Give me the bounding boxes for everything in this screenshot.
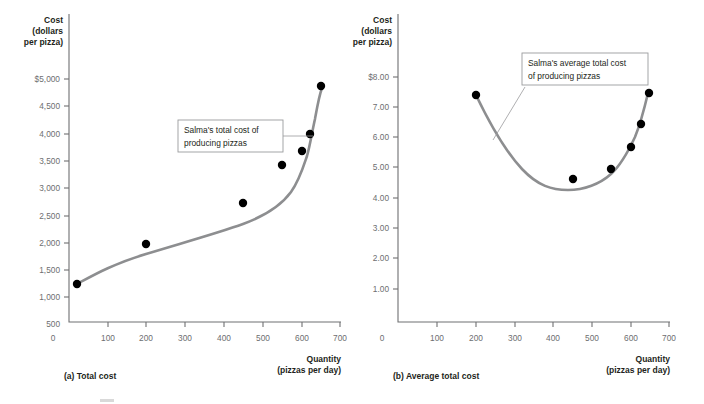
x-tick-label-300: 300 xyxy=(178,333,192,343)
data-point xyxy=(607,165,615,173)
callout-leader-line xyxy=(493,87,525,140)
data-point xyxy=(637,120,645,128)
y-ticks xyxy=(64,79,69,297)
y-tick-label-2: 2.00 xyxy=(373,253,390,263)
panel-caption-a: (a) Total cost xyxy=(64,371,116,381)
data-point xyxy=(472,91,480,99)
x-tick-label-700: 700 xyxy=(662,333,676,343)
x-tick-label-0: 0 xyxy=(51,333,56,343)
data-point xyxy=(317,82,325,90)
data-points xyxy=(73,82,325,288)
x-tick-label-0: 0 xyxy=(380,333,385,343)
y-tick-label-3000: 3,000 xyxy=(39,183,60,193)
x-tick-label-600: 600 xyxy=(295,333,309,343)
callout-text-line1: Salma's total cost of xyxy=(184,125,259,135)
y-tick-label-3: 3.00 xyxy=(373,223,390,233)
x-tick-label-400: 400 xyxy=(217,333,231,343)
x-tick-label-100: 100 xyxy=(101,333,115,343)
y-tick-label-5: 5.00 xyxy=(373,162,390,172)
y-tick-label-5000: $5,000 xyxy=(35,74,61,84)
x-tick-label-400: 400 xyxy=(546,333,560,343)
x-tick-label-200: 200 xyxy=(139,333,153,343)
x-axis-title-line1: Quantity xyxy=(636,354,671,364)
data-point xyxy=(569,175,577,183)
y-axis-title-line1: Cost xyxy=(373,15,392,25)
panel-total-cost: Cost (dollars per pizza) $5,000 4,500 4,… xyxy=(0,0,352,404)
y-tick-label-1: 1.00 xyxy=(373,284,390,294)
y-tick-label-2000: 2,000 xyxy=(39,238,60,248)
y-tick-label-1500: 1,500 xyxy=(39,265,60,275)
y-tick-label-4: 4.00 xyxy=(373,193,390,203)
x-tick-label-600: 600 xyxy=(624,333,638,343)
x-ticks xyxy=(108,322,340,327)
data-point xyxy=(298,147,306,155)
y-axis-title-line2: (dollars xyxy=(361,26,392,36)
y-tick-label-4500: 4,500 xyxy=(39,101,60,111)
y-tick-label-500: 500 xyxy=(46,319,60,329)
data-point xyxy=(73,280,81,288)
data-point xyxy=(627,143,635,151)
y-ticks xyxy=(393,77,398,289)
y-tick-label-8: $8.00 xyxy=(368,72,389,82)
data-point xyxy=(645,89,653,97)
average-total-cost-chart-svg: Cost (dollars per pizza) $8.00 7.00 6.00… xyxy=(352,0,704,404)
y-axis-title-line3: per pizza) xyxy=(24,37,63,47)
y-tick-label-6: 6.00 xyxy=(373,132,390,142)
x-tick-label-500: 500 xyxy=(256,333,270,343)
total-cost-curve xyxy=(77,88,322,284)
page-artifact xyxy=(100,399,114,402)
x-axis-title-line2: (pizzas per day) xyxy=(606,365,670,375)
x-tick-label-100: 100 xyxy=(430,333,444,343)
x-tick-label-700: 700 xyxy=(333,333,347,343)
callout-text-line2: producing pizzas xyxy=(184,138,247,148)
callout-text-line2: of producing pizzas xyxy=(528,71,600,81)
x-tick-label-500: 500 xyxy=(585,333,599,343)
average-total-cost-curve xyxy=(476,93,648,190)
data-point xyxy=(239,199,247,207)
panel-average-total-cost: Cost (dollars per pizza) $8.00 7.00 6.00… xyxy=(352,0,704,404)
callout-text-line1: Salma's average total cost xyxy=(528,58,627,68)
y-tick-label-7: 7.00 xyxy=(373,102,390,112)
y-tick-label-3500: 3,500 xyxy=(39,156,60,166)
axis-lines xyxy=(69,14,341,322)
y-axis-title-line1: Cost xyxy=(44,15,63,25)
y-tick-label-4000: 4,000 xyxy=(39,129,60,139)
total-cost-chart-svg: Cost (dollars per pizza) $5,000 4,500 4,… xyxy=(0,0,352,404)
data-point xyxy=(306,130,314,138)
x-axis-title-line2: (pizzas per day) xyxy=(277,365,341,375)
y-axis-title-line3: per pizza) xyxy=(353,37,392,47)
data-point xyxy=(278,161,286,169)
x-axis-title-line1: Quantity xyxy=(307,354,342,364)
x-tick-label-300: 300 xyxy=(508,333,522,343)
x-ticks xyxy=(437,322,669,327)
y-axis-title-line2: (dollars xyxy=(32,26,63,36)
x-tick-label-200: 200 xyxy=(469,333,483,343)
y-tick-label-2500: 2,500 xyxy=(39,211,60,221)
panel-caption-b: (b) Average total cost xyxy=(393,371,479,381)
data-point xyxy=(142,240,150,248)
y-tick-label-1000: 1,000 xyxy=(39,292,60,302)
